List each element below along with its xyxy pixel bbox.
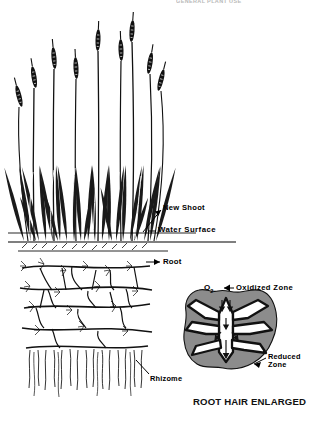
label-root: Root	[163, 258, 182, 266]
label-reduced-zone-line2: Zone	[268, 360, 286, 369]
plant-diagram-figure: GENERAL PLANT USE	[0, 0, 320, 423]
rhizome-network	[20, 258, 152, 348]
root-hair-cross-section	[184, 290, 277, 369]
label-reduced-zone: ReducedZone	[268, 353, 301, 369]
label-rhizome: Rhizome	[150, 375, 182, 383]
page-header-text: GENERAL PLANT USE	[176, 0, 306, 6]
label-new-shoot: New Shoot	[163, 204, 205, 212]
sediment-surface	[18, 243, 168, 251]
label-oxygen-subscript: 2	[210, 288, 213, 294]
label-oxidized-zone: Oxidized Zone	[236, 284, 293, 292]
cattail-plant-group	[3, 12, 277, 397]
label-oxygen: O2	[204, 284, 213, 294]
figure-caption: ROOT HAIR ENLARGED	[193, 396, 306, 407]
hanging-roots	[29, 349, 142, 397]
label-water-surface: Water Surface	[158, 226, 216, 234]
